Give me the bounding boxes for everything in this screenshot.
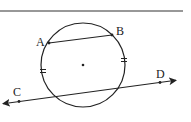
- point-b-dot: [111, 34, 114, 37]
- label-c: C: [13, 85, 21, 99]
- chord-ab: [49, 35, 112, 43]
- point-a-dot: [48, 42, 51, 45]
- label-d: D: [156, 67, 165, 81]
- label-b: B: [116, 24, 124, 38]
- point-d-dot: [159, 81, 162, 84]
- circle-center-dot: [82, 64, 85, 67]
- geometry-diagram: A B C D: [0, 0, 191, 122]
- line-cd: [3, 80, 176, 103]
- point-c-dot: [18, 100, 21, 103]
- congruence-tick-right: [121, 59, 127, 62]
- label-a: A: [36, 35, 45, 49]
